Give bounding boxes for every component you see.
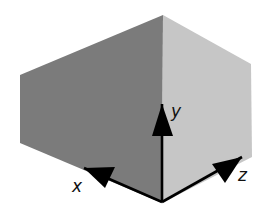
box-diagram: x y z	[0, 0, 262, 213]
y-axis-label: y	[170, 101, 182, 121]
diagram-canvas: x y z	[0, 0, 262, 213]
z-axis-label: z	[237, 165, 248, 185]
x-axis-label: x	[71, 176, 83, 196]
